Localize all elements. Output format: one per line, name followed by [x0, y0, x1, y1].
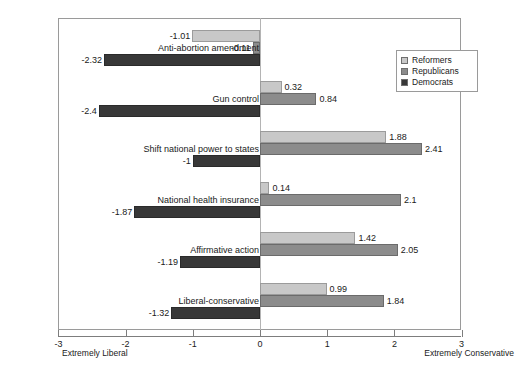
- bar-value-label: -2.4: [81, 106, 97, 116]
- bar-value-label: 1.84: [387, 296, 405, 306]
- legend-swatch-icon: [401, 79, 408, 86]
- x-axis-tick: [462, 330, 463, 337]
- bar-republicans: [260, 143, 422, 155]
- legend-item-reformers: Reformers: [401, 55, 473, 65]
- bar-democrats: [193, 155, 260, 167]
- x-axis-tick: [260, 330, 261, 337]
- bar-democrats: [171, 307, 260, 319]
- bar-value-label: 2.41: [425, 144, 443, 154]
- bar-democrats: [180, 256, 260, 268]
- legend: Reformers Republicans Democrats: [396, 50, 478, 92]
- bar-value-label: 1.42: [358, 233, 376, 243]
- bar-value-label: 1.88: [389, 132, 407, 142]
- bar-reformers: [260, 81, 282, 93]
- x-axis-tick: [193, 330, 194, 337]
- bar-value-label: 2.05: [401, 245, 419, 255]
- legend-swatch-icon: [401, 68, 408, 75]
- x-axis-tick: [327, 330, 328, 337]
- bar-republicans: [260, 194, 401, 206]
- bar-reformers: [260, 232, 355, 244]
- bar-value-label: -1.87: [112, 207, 133, 217]
- bar-value-label: -1.32: [149, 308, 170, 318]
- bar-value-label: 0.84: [319, 94, 337, 104]
- axis-end-label-left: Extremely Liberal: [62, 348, 128, 358]
- bar-republicans: [260, 295, 384, 307]
- bar-reformers: [260, 182, 269, 194]
- bar-democrats: [99, 105, 260, 117]
- bar-value-label: -2.32: [82, 55, 103, 65]
- bar-republicans: [260, 244, 398, 256]
- bar-republicans: [260, 93, 316, 105]
- x-axis-tick-label: 1: [325, 339, 330, 349]
- category-label: Affirmative action: [190, 245, 259, 255]
- legend-label: Republicans: [412, 67, 459, 76]
- bar-value-label: 2.1: [404, 195, 417, 205]
- bar-value-label: 0.14: [272, 183, 290, 193]
- category-label: Anti-abortion amendment: [158, 43, 259, 53]
- x-axis-tick: [394, 330, 395, 337]
- x-axis-tick-label: -1: [189, 339, 197, 349]
- x-axis-tick: [126, 330, 127, 337]
- legend-item-republicans: Republicans: [401, 66, 473, 76]
- legend-item-democrats: Democrats: [401, 77, 473, 87]
- x-axis-tick: [58, 330, 59, 337]
- bar-chart: -1.01-0.11-2.32Anti-abortion amendment0.…: [0, 0, 517, 370]
- x-axis-tick-label: 0: [257, 339, 262, 349]
- category-label: Liberal-conservative: [178, 296, 259, 306]
- bar-reformers: [192, 30, 260, 42]
- bar-reformers: [260, 283, 327, 295]
- category-label: National health insurance: [157, 195, 259, 205]
- bar-value-label: 0.32: [285, 82, 303, 92]
- x-axis-tick-label: 2: [392, 339, 397, 349]
- category-label: Shift national power to states: [143, 144, 259, 154]
- axis-end-label-right: Extremely Conservative: [424, 348, 514, 358]
- bar-democrats: [134, 206, 260, 218]
- legend-label: Reformers: [412, 56, 452, 65]
- bar-value-label: -1.19: [158, 257, 179, 267]
- bar-value-label: 0.99: [330, 284, 348, 294]
- bar-democrats: [104, 54, 260, 66]
- bar-value-label: -1.01: [170, 31, 191, 41]
- category-label: Gun control: [212, 94, 259, 104]
- bar-value-label: -1: [183, 156, 191, 166]
- bar-reformers: [260, 131, 386, 143]
- legend-label: Democrats: [412, 78, 453, 87]
- legend-swatch-icon: [401, 57, 408, 64]
